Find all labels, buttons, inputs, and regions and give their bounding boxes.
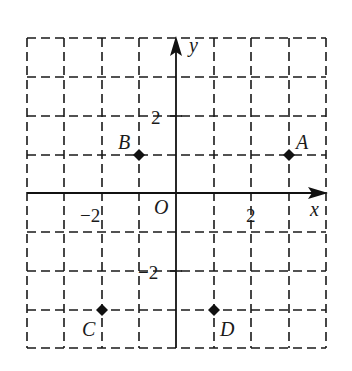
coordinate-plane-diagram: y x O 2 −2 −2 2 A B C D <box>0 0 352 371</box>
coordinate-plane-svg: y x O 2 −2 −2 2 A B C D <box>0 0 352 371</box>
point-B-marker <box>133 149 145 161</box>
x-axis-label: x <box>309 198 319 220</box>
tick-label-x-2: 2 <box>246 205 256 226</box>
point-A-label: A <box>294 131 309 153</box>
point-C-marker <box>96 304 108 316</box>
point-D-label: D <box>219 318 235 340</box>
tick-label-x-neg2: −2 <box>80 205 100 226</box>
axes <box>27 36 328 348</box>
point-A-marker <box>283 149 295 161</box>
tick-label-y-neg2: −2 <box>138 262 158 283</box>
point-B-label: B <box>118 131 130 153</box>
point-D-marker <box>208 304 220 316</box>
y-axis-label: y <box>187 34 198 57</box>
point-A: A <box>283 131 309 161</box>
point-B: B <box>118 131 145 161</box>
point-C-label: C <box>82 318 96 340</box>
origin-label: O <box>154 196 168 218</box>
tick-label-y-2: 2 <box>151 107 161 128</box>
